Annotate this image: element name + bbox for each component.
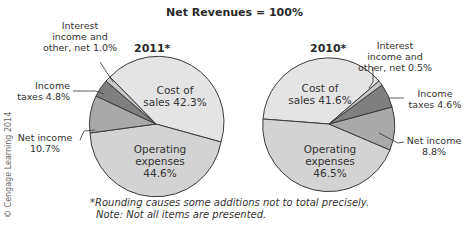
label-interest-2010: Interestincome andother, net 0.5%	[350, 40, 440, 73]
label-cost-of-sales-2010: Cost ofsales 41.6%	[285, 82, 355, 106]
label-interest-2011: Interestincome andother, net 1.0%	[40, 20, 120, 53]
label-cost-of-sales-2011: Cost ofsales 42.3%	[140, 84, 210, 108]
footnote-note: Note: Not all items are presented.	[90, 209, 460, 221]
label-operating-expenses-2011: Operatingexpenses44.6%	[120, 143, 200, 179]
label-net-income-2011: Net income10.7%	[12, 132, 78, 154]
footnote-rounding: *Rounding causes some additions not to t…	[90, 197, 460, 209]
year-label-2010: 2010*	[310, 42, 346, 55]
label-income-taxes-2010: Incometaxes 4.6%	[404, 88, 466, 110]
year-label-2011: 2011*	[134, 42, 170, 55]
copyright: © Cengage Learning 2014	[4, 112, 13, 218]
label-income-taxes-2011: Incometaxes 4.8%	[10, 80, 70, 102]
footnote: *Rounding causes some additions not to t…	[90, 197, 460, 221]
label-net-income-2010: Net income8.8%	[402, 135, 466, 157]
label-operating-expenses-2010: Operatingexpenses46.5%	[290, 143, 370, 179]
